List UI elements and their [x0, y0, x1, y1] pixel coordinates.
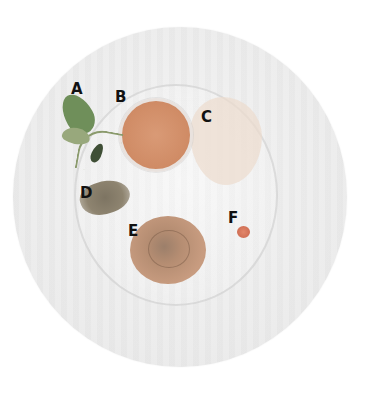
label-d: D	[80, 186, 92, 201]
label-c: C	[201, 110, 212, 125]
label-e: E	[128, 224, 138, 239]
label-b: B	[115, 90, 126, 105]
label-f: F	[228, 211, 238, 226]
label-a: A	[71, 82, 83, 97]
item-f-dot	[237, 226, 250, 238]
item-e-swirl	[130, 216, 206, 284]
item-b-bowl	[119, 98, 193, 172]
